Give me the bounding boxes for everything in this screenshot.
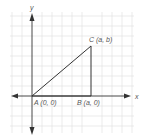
x-axis-right-arrow-icon: [124, 94, 131, 99]
point-c-label: C (a, b): [89, 36, 112, 44]
x-axis-label: x: [134, 93, 139, 100]
coordinate-plane: x y A (0, 0) B (a, 0) C (a, b): [0, 0, 143, 140]
y-axis-up-arrow-icon: [30, 13, 35, 21]
point-b-label: B (a, 0): [77, 99, 100, 107]
y-axis-down-arrow-icon: [30, 127, 35, 135]
point-a-label: A (0, 0): [33, 99, 57, 107]
grid: [10, 12, 134, 133]
y-axis-label: y: [29, 4, 34, 12]
